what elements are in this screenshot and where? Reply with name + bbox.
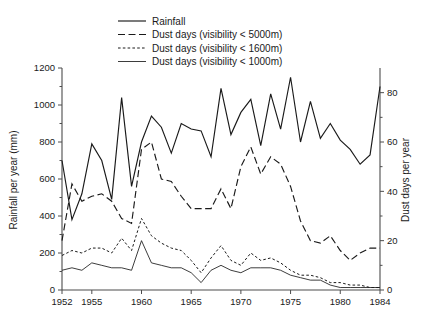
chart-figure: RainfallDust days (visibility < 5000m)Du… — [0, 0, 421, 323]
y2-tick-label: 0 — [387, 284, 392, 295]
y-tick-label: 200 — [39, 247, 55, 258]
x-tick-label: 1984 — [369, 296, 390, 307]
x-tick-label: 1960 — [131, 296, 152, 307]
y-tick-label: 1200 — [34, 62, 55, 73]
legend-label: Dust days (visibility < 5000m) — [152, 29, 282, 40]
y-tick-label: 400 — [39, 210, 55, 221]
y2-tick-label: 60 — [387, 136, 398, 147]
x-tick-label: 1965 — [181, 296, 202, 307]
x-tick-label: 1970 — [230, 296, 251, 307]
x-tick-label: 1952 — [51, 296, 72, 307]
x-tick-label: 1980 — [330, 296, 351, 307]
rainfall-dustdays-chart: RainfallDust days (visibility < 5000m)Du… — [0, 0, 421, 323]
y-tick-label: 1000 — [34, 99, 55, 110]
y2-axis-title: Dust days per year — [400, 137, 411, 222]
y2-tick-label: 40 — [387, 186, 398, 197]
legend-label: Dust days (visibility < 1000m) — [152, 56, 282, 67]
y2-tick-label: 20 — [387, 235, 398, 246]
legend-label: Rainfall — [152, 16, 185, 27]
y-tick-label: 800 — [39, 136, 55, 147]
x-tick-label: 1955 — [81, 296, 102, 307]
legend-label: Dust days (visibility < 1600m) — [152, 43, 282, 54]
x-tick-label: 1975 — [280, 296, 301, 307]
y2-tick-label: 80 — [387, 87, 398, 98]
y-axis-title: Rainfall per year (mm) — [8, 131, 19, 230]
y-tick-label: 0 — [50, 284, 55, 295]
y-tick-label: 600 — [39, 173, 55, 184]
